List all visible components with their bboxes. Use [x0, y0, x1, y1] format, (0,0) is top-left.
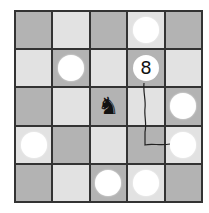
cell-r2c1[interactable]	[16, 50, 51, 86]
cell-r5c1[interactable]	[16, 165, 51, 201]
cell-r3c2[interactable]	[53, 88, 88, 124]
cell-r4c1[interactable]	[16, 127, 51, 163]
white-disc[interactable]	[21, 132, 47, 158]
white-disc[interactable]	[170, 132, 196, 158]
cell-r2c3[interactable]	[91, 50, 126, 86]
puzzle-board: 8 ♞	[14, 10, 203, 203]
cell-r5c4[interactable]	[128, 165, 163, 201]
white-disc[interactable]	[95, 170, 121, 196]
cell-r3c5[interactable]	[166, 88, 201, 124]
cell-r1c3[interactable]	[91, 12, 126, 48]
cell-r4c5[interactable]	[166, 127, 201, 163]
cell-r3c1[interactable]	[16, 88, 51, 124]
cell-r5c3[interactable]	[91, 165, 126, 201]
cell-r1c1[interactable]	[16, 12, 51, 48]
cell-r5c5[interactable]	[166, 165, 201, 201]
white-disc[interactable]	[133, 17, 159, 43]
cell-r5c2[interactable]	[53, 165, 88, 201]
cell-r3c3[interactable]: ♞	[91, 88, 126, 124]
cell-r1c2[interactable]	[53, 12, 88, 48]
white-disc[interactable]	[133, 170, 159, 196]
cell-r2c4[interactable]: 8	[128, 50, 163, 86]
white-disc[interactable]	[170, 93, 196, 119]
cell-r4c3[interactable]	[91, 127, 126, 163]
cell-r4c2[interactable]	[53, 127, 88, 163]
knight-icon[interactable]: ♞	[98, 94, 120, 118]
cell-r1c4[interactable]	[128, 12, 163, 48]
cell-r4c4[interactable]	[128, 127, 163, 163]
numbered-disc[interactable]: 8	[133, 55, 159, 81]
cell-r3c4[interactable]	[128, 88, 163, 124]
white-disc[interactable]	[58, 55, 84, 81]
cell-r2c2[interactable]	[53, 50, 88, 86]
cell-r1c5[interactable]	[166, 12, 201, 48]
cell-r2c5[interactable]	[166, 50, 201, 86]
